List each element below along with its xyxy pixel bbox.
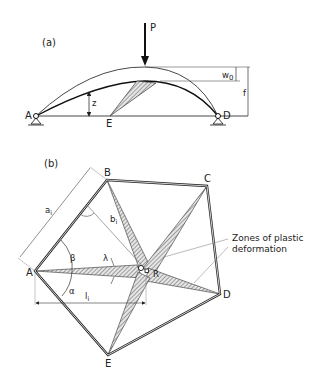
- point-r-label: R: [153, 269, 159, 279]
- z-label: z: [92, 98, 97, 108]
- figure-b-label: (b): [44, 158, 58, 169]
- plastic-zone-arm-a: [35, 265, 142, 278]
- ai-dimension: [20, 168, 90, 257]
- ai-label: ai: [45, 205, 52, 217]
- plastic-zone-arm-b: [107, 180, 150, 268]
- point-a-label-b: A: [26, 267, 33, 278]
- annotation-line-2: deformation: [232, 244, 287, 254]
- lambda-mark-top: [111, 258, 114, 266]
- point-a-label: A: [25, 110, 32, 121]
- beta-label: β: [70, 253, 75, 263]
- li-label: li: [85, 291, 89, 303]
- leader-line-2: [194, 247, 228, 283]
- point-e-label: E: [106, 118, 112, 129]
- figure-a-label: (a): [42, 37, 56, 48]
- point-b-label: B: [104, 167, 111, 178]
- undeformed-arch: [36, 67, 218, 116]
- f-label: f: [243, 88, 247, 98]
- bi-line: [87, 205, 146, 270]
- plastic-zone-wedge: [110, 81, 156, 116]
- point-c-label: C: [204, 173, 211, 184]
- load-arrowhead: [141, 56, 149, 66]
- plastic-zones: [35, 180, 220, 355]
- point-d-label-b: D: [223, 289, 231, 300]
- bi-label: bi: [110, 214, 117, 226]
- figure-b: (b): [18, 158, 303, 369]
- annotation-line-1: Zones of plastic: [232, 233, 303, 243]
- right-angle-arc: [80, 213, 94, 216]
- point-e-label-b: E: [105, 358, 111, 369]
- plastic-deformation-diagram: (a) P z A D E w0: [0, 0, 313, 386]
- plastic-zone-arm-c: [143, 186, 207, 276]
- point-d-label: D: [223, 110, 231, 121]
- lambda-mark-bottom: [111, 277, 114, 284]
- w0-label: w0: [222, 70, 233, 82]
- load-label: P: [150, 22, 156, 33]
- alpha-label: α: [69, 286, 75, 296]
- figure-a: (a) P z A D E w0: [25, 22, 250, 129]
- lambda-label: λ: [103, 253, 108, 263]
